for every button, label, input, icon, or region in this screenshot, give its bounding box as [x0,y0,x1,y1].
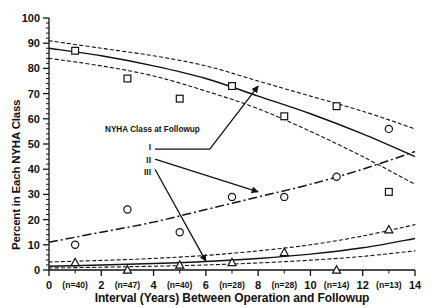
y-tick-label: 50 [28,138,40,150]
data-point-class-ii [72,241,79,248]
y-tick-label: 0 [34,264,40,276]
sample-size-label: (n=13) [376,280,402,290]
data-point-class-i [229,83,236,90]
chart-canvas: Percent in Each NYHA Class Interval (Yea… [0,0,432,308]
legend-label-class-ii: II [146,155,151,165]
legend-title: NYHA Class at Followup [105,125,200,134]
arrow-class-iii [155,169,206,261]
sample-size-label: (n=40) [167,280,193,290]
fitted-curves [49,48,415,266]
annotation-arrows [155,86,258,261]
confidence-bands [49,41,415,268]
y-axis: 0102030405060708090100 [22,12,49,276]
y-tick-label: 20 [28,214,40,226]
legend-label-class-i: I [149,142,151,152]
data-point-class-i [385,188,392,195]
data-point-class-ii [333,173,340,180]
y-tick-label: 40 [28,163,40,175]
fit-line-class-i [49,48,415,156]
y-tick-label: 70 [28,88,40,100]
sample-size-label: (n=28) [272,280,298,290]
data-point-class-ii [385,125,392,132]
ci-lower-class-i [49,58,415,184]
data-point-class-ii [228,193,235,200]
data-point-class-ii [281,193,288,200]
x-axis-title: Interval (Years) Between Operation and F… [95,291,370,305]
arrow-class-ii [155,159,258,192]
y-tick-label: 10 [28,239,40,251]
x-tick-label: 14 [409,279,422,291]
legend-label-class-iii: III [144,167,151,177]
y-tick-label: 60 [28,113,40,125]
sample-size-label: (n=47) [115,280,141,290]
sample-size-label: (n=14) [324,280,350,290]
y-tick-label: 30 [28,188,40,200]
x-tick-label: 10 [304,279,316,291]
data-point-class-i [124,75,131,82]
x-tick-label: 8 [255,279,261,291]
chart-figure: Percent in Each NYHA Class Interval (Yea… [0,0,432,308]
x-tick-label: 4 [151,279,158,291]
y-tick-label: 80 [28,62,40,74]
data-point-class-ii [124,206,131,213]
arrow-class-i [155,86,258,149]
data-point-class-i [281,113,288,120]
data-markers [71,47,393,273]
sample-size-label: (n=28) [219,280,245,290]
x-tick-label: 2 [98,279,104,291]
x-tick-label: 6 [203,279,209,291]
data-point-class-iii [385,225,393,232]
sample-size-labels: (n=40)(n=47)(n=40)(n=28)(n=28)(n=14)(n=1… [62,280,401,290]
x-tick-label: 0 [46,279,52,291]
y-tick-label: 90 [28,37,40,49]
data-point-class-i [72,47,79,54]
data-point-class-ii [176,229,183,236]
data-point-class-iii [71,258,79,265]
y-tick-label: 100 [22,12,40,24]
data-point-class-iii [280,248,288,255]
y-axis-title: Percent in Each NYHA Class [10,100,22,250]
sample-size-label: (n=40) [62,280,88,290]
data-point-class-i [333,103,340,110]
x-tick-label: 12 [357,279,369,291]
data-point-class-i [176,95,183,102]
